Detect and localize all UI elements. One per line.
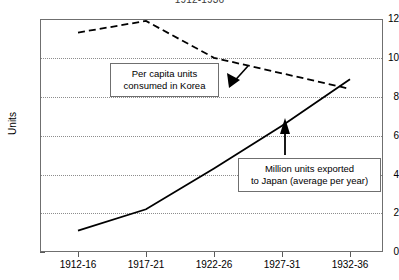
gridline-2 [41,213,382,214]
x-tick-mark-1917-21 [146,252,147,257]
x-tick-mark-1912-16 [78,252,79,257]
x-tick-label-1932-36: 1932-36 [305,259,395,270]
gridline-6 [41,136,382,137]
annotation-japan-exports: Million units exported to Japan (average… [238,158,381,192]
y-tick-mark-0 [40,252,45,253]
chart-container: 1912-1936 0 2 4 6 8 10 12 Units 1912-16 … [0,0,399,280]
x-tick-mark-1932-36 [350,252,351,257]
gridline-8 [41,97,382,98]
gridline-10 [41,58,382,59]
x-tick-mark-1922-26 [214,252,215,257]
chart-title: 1912-1936 [0,0,399,4]
x-tick-mark-1927-31 [282,252,283,257]
y-axis-title: Units [7,94,18,154]
annotation-korea-consumption: Per capita units consumed in Korea [110,63,219,97]
